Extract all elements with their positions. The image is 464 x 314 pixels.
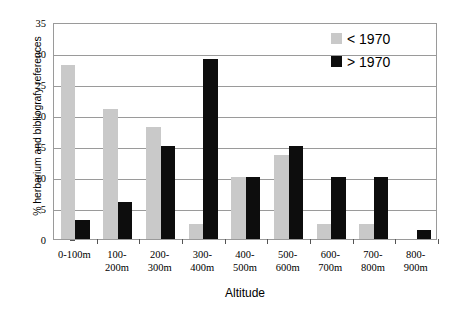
bar xyxy=(246,177,261,239)
x-tick-label-line: 400m xyxy=(181,261,224,274)
x-tick-label-line: 900m xyxy=(394,261,437,274)
x-tick-label-line: 500- xyxy=(266,248,309,261)
bar-group xyxy=(182,24,225,239)
x-tick-label-line: 600- xyxy=(309,248,352,261)
y-tick-label: 5 xyxy=(22,204,46,215)
bar-group xyxy=(267,24,310,239)
y-tick-label: 25 xyxy=(22,80,46,91)
x-tick-label-line: 600m xyxy=(266,261,309,274)
x-tick-label-line: 700- xyxy=(352,248,395,261)
legend-label: > 1970 xyxy=(347,54,390,70)
bar-group xyxy=(97,24,140,239)
x-axis-title: Altitude xyxy=(53,286,437,300)
x-tick-label-line: 700m xyxy=(309,261,352,274)
x-tick-mark xyxy=(310,239,311,244)
bar xyxy=(231,177,246,239)
x-tick-label-line: 500m xyxy=(224,261,267,274)
x-tick-label-line: 200m xyxy=(96,261,139,274)
bar xyxy=(374,177,389,239)
bar-group xyxy=(54,24,97,239)
bar xyxy=(61,65,76,239)
x-tick-mark xyxy=(182,239,183,244)
y-axis-tick-labels: 05101520253035 xyxy=(22,23,46,240)
x-tick-label: 0-100m xyxy=(53,248,96,261)
bar-chart: % herbarium and bibliografy references 0… xyxy=(0,0,464,314)
x-tick-mark xyxy=(353,239,354,244)
bar xyxy=(75,220,90,239)
bar-group xyxy=(139,24,182,239)
legend-label: < 1970 xyxy=(347,31,390,47)
x-tick-label-line: 400- xyxy=(224,248,267,261)
y-tick-label: 30 xyxy=(22,49,46,60)
bar xyxy=(289,146,304,239)
x-tick-mark xyxy=(438,239,439,244)
x-tick-mark xyxy=(225,239,226,244)
bar xyxy=(317,224,332,240)
bar xyxy=(161,146,176,239)
x-tick-label: 700-800m xyxy=(352,248,395,274)
x-tick-label-line: 100- xyxy=(96,248,139,261)
x-tick-label: 800-900m xyxy=(394,248,437,274)
y-tick-mark xyxy=(70,240,75,241)
x-tick-label-line: 0-100m xyxy=(53,248,96,261)
bar xyxy=(103,109,118,239)
x-tick-label: 200-300m xyxy=(138,248,181,274)
x-tick-label-line: 300m xyxy=(138,261,181,274)
x-tick-label-line: 800m xyxy=(352,261,395,274)
x-tick-label: 500-600m xyxy=(266,248,309,274)
x-tick-mark xyxy=(97,239,98,244)
bar xyxy=(331,177,346,239)
legend-swatch-icon xyxy=(331,56,342,67)
x-tick-label: 100-200m xyxy=(96,248,139,274)
x-tick-label-line: 200- xyxy=(138,248,181,261)
x-tick-label: 400-500m xyxy=(224,248,267,274)
bar xyxy=(203,59,218,239)
bar xyxy=(359,224,374,240)
legend: < 1970 > 1970 xyxy=(331,27,431,73)
x-tick-label: 600-700m xyxy=(309,248,352,274)
x-axis-tick-labels: 0-100m100-200m200-300m300-400m400-500m50… xyxy=(53,248,437,284)
bar xyxy=(118,202,133,239)
y-tick-label: 10 xyxy=(22,173,46,184)
bar xyxy=(146,127,161,239)
bar xyxy=(417,230,432,239)
x-tick-mark xyxy=(267,239,268,244)
y-tick-label: 0 xyxy=(22,235,46,246)
bar xyxy=(274,155,289,239)
legend-item-old: < 1970 xyxy=(331,27,431,50)
x-tick-mark xyxy=(139,239,140,244)
x-tick-label-line: 800- xyxy=(394,248,437,261)
bar xyxy=(189,224,204,240)
y-tick-label: 15 xyxy=(22,142,46,153)
y-tick-label: 35 xyxy=(22,18,46,29)
legend-swatch-icon xyxy=(331,33,342,44)
legend-item-new: > 1970 xyxy=(331,50,431,73)
bar-group xyxy=(225,24,268,239)
y-tick-label: 20 xyxy=(22,111,46,122)
x-tick-label: 300-400m xyxy=(181,248,224,274)
x-tick-label-line: 300- xyxy=(181,248,224,261)
x-tick-mark xyxy=(395,239,396,244)
